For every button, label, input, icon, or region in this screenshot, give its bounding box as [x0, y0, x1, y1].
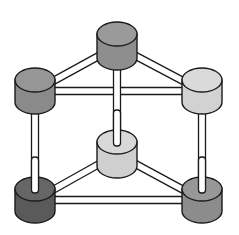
cylinder-top	[97, 22, 137, 46]
rod-stub-bottom-right	[199, 157, 206, 193]
cylinder-node-top-back	[97, 22, 137, 70]
rod-stub-bottom-left	[32, 157, 39, 193]
cylinder-top	[15, 68, 55, 92]
diagram-canvas	[0, 0, 239, 235]
cylinder-nodes	[15, 22, 222, 223]
rod-stub-bottom-back	[114, 110, 121, 146]
cylinder-top	[182, 68, 222, 92]
prism-network-diagram	[0, 0, 239, 235]
cylinder-node-top-right	[182, 68, 222, 114]
cylinder-node-top-left	[15, 68, 55, 114]
rod-bottom-left-to-bottom-right	[35, 197, 202, 204]
